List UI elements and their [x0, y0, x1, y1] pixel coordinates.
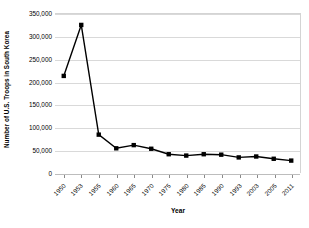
x-tick-mark	[187, 175, 188, 178]
x-tick-mark	[117, 175, 118, 178]
data-point-marker	[62, 74, 66, 78]
x-tick-mark	[169, 175, 170, 178]
data-point-marker	[219, 152, 223, 156]
x-tick-mark	[204, 175, 205, 178]
data-point-marker	[237, 155, 241, 159]
data-point-marker	[202, 152, 206, 156]
y-tick-label: 100,000	[29, 124, 52, 131]
series-line	[64, 25, 291, 161]
data-point-marker	[79, 23, 83, 27]
plot-area	[55, 13, 301, 173]
data-point-marker	[184, 153, 188, 157]
data-series-troops	[55, 14, 300, 173]
x-tick-mark	[240, 175, 241, 178]
y-tick-label: 300,000	[29, 32, 52, 39]
data-point-marker	[272, 157, 276, 161]
data-point-marker	[289, 158, 293, 162]
x-tick-mark	[134, 175, 135, 178]
data-point-marker	[132, 143, 136, 147]
data-point-marker	[167, 152, 171, 156]
y-axis-title-text: Number of U.S. Troops in South Korea	[4, 30, 11, 147]
y-tick-label: 250,000	[29, 55, 52, 62]
x-tick-mark	[275, 175, 276, 178]
data-point-marker	[97, 132, 101, 136]
x-axis-title: Year	[55, 207, 301, 214]
x-tick-mark	[64, 175, 65, 178]
x-axis-tick-labels: 1950195319551960196519701975198019851990…	[55, 175, 301, 205]
x-tick-mark	[81, 175, 82, 178]
data-point-marker	[254, 154, 258, 158]
y-tick-label: 150,000	[29, 101, 52, 108]
data-point-marker	[114, 146, 118, 150]
x-tick-mark	[292, 175, 293, 178]
x-tick-mark	[99, 175, 100, 178]
x-tick-mark	[257, 175, 258, 178]
y-axis-tick-labels: 050,000100,000150,000200,000250,000300,0…	[12, 0, 54, 178]
data-point-marker	[149, 147, 153, 151]
y-tick-label: 50,000	[32, 147, 52, 154]
chart-figure: Number of U.S. Troops in South Korea 050…	[0, 0, 309, 228]
y-tick-label: 350,000	[29, 10, 52, 17]
y-tick-label: 200,000	[29, 78, 52, 85]
y-tick-label: 0	[48, 170, 52, 177]
x-tick-mark	[152, 175, 153, 178]
x-tick-mark	[222, 175, 223, 178]
